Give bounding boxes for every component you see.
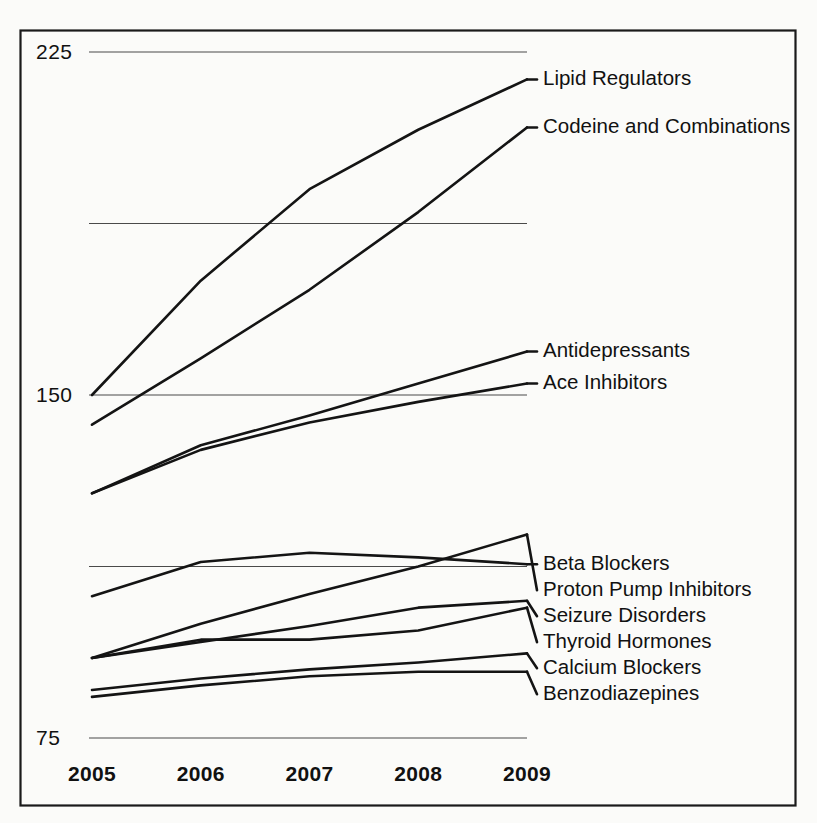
series-label-benzodiazepines: Benzodiazepines	[543, 681, 699, 704]
chart-figure: 22515075 Lipid RegulatorsCodeine and Com…	[0, 0, 817, 823]
series-label-lipid-regulators: Lipid Regulators	[543, 66, 691, 89]
y-tick-label-225: 225	[36, 40, 73, 63]
x-tick-label-2009: 2009	[503, 762, 551, 785]
series-label-thyroid-hormones: Thyroid Hormones	[543, 629, 712, 652]
series-label-beta-blockers: Beta Blockers	[543, 551, 669, 574]
x-tick-label-2008: 2008	[394, 762, 442, 785]
series-label-seizure-disorders: Seizure Disorders	[543, 603, 706, 626]
series-label-antidepressants: Antidepressants	[543, 338, 690, 361]
x-tick-label-2006: 2006	[177, 762, 225, 785]
series-label-codeine-and-combinations: Codeine and Combinations	[543, 114, 790, 137]
y-tick-label-75: 75	[36, 726, 60, 749]
series-label-ace-inhibitors: Ace Inhibitors	[543, 370, 667, 393]
x-tick-label-2005: 2005	[68, 762, 116, 785]
series-label-calcium-blockers: Calcium Blockers	[543, 655, 701, 678]
y-tick-label-150: 150	[36, 383, 73, 406]
x-tick-label-2007: 2007	[286, 762, 334, 785]
series-label-proton-pump-inhibitors: Proton Pump Inhibitors	[543, 577, 752, 600]
line-chart-canvas: 22515075 Lipid RegulatorsCodeine and Com…	[0, 0, 817, 823]
